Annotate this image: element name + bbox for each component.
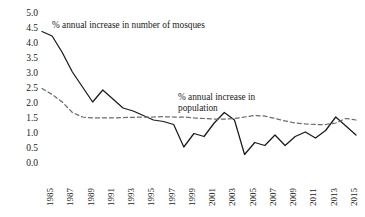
x-tick: 1989 (87, 188, 96, 206)
x-tick: 2001 (208, 188, 217, 206)
x-tick: 2007 (269, 188, 278, 206)
x-tick: 2009 (289, 188, 298, 206)
x-tick: 1993 (127, 188, 136, 206)
x-tick: 2005 (249, 188, 258, 206)
x-tick: 2003 (228, 188, 237, 206)
x-tick: 1987 (66, 188, 75, 206)
annotation-mosques: % annual increase in number of mosques (52, 20, 205, 31)
annotation-population: % annual increase in population (178, 92, 273, 114)
x-tick: 2011 (309, 188, 318, 206)
x-tick: 1999 (188, 188, 197, 206)
x-tick: 1995 (147, 188, 156, 206)
x-tick: 2013 (330, 188, 339, 206)
line-chart: 5.0 4.5 4.0 3.5 3.0 2.5 2.0 1.5 1.0 0.5 … (0, 0, 365, 217)
x-tick: 2015 (350, 188, 359, 206)
x-tick: 1997 (168, 188, 177, 206)
annotation-population-line1: % annual increase in (178, 92, 273, 103)
x-tick: 1991 (107, 188, 116, 206)
annotation-population-line2: population (178, 103, 273, 114)
x-tick: 1985 (46, 188, 55, 206)
